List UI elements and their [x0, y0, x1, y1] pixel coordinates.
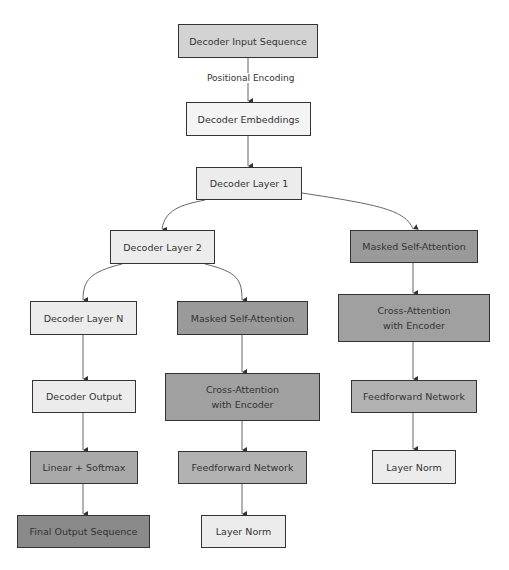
node-feedforward-mid: Feedforward Network [178, 451, 307, 484]
edge-layer1-maskedsa-right [302, 193, 413, 229]
node-decoder-layer-n: Decoder Layer N [30, 301, 137, 335]
edge-label-positional-encoding: Positional Encoding [205, 73, 296, 83]
edge-layer1-layer2 [162, 200, 205, 229]
node-masked-self-attention-mid: Masked Self-Attention [177, 301, 308, 335]
node-final-output-sequence: Final Output Sequence [17, 515, 150, 548]
node-feedforward-right: Feedforward Network [351, 380, 477, 413]
node-layer-norm-mid: Layer Norm [201, 515, 286, 548]
node-linear-softmax: Linear + Softmax [30, 451, 138, 484]
diagram-canvas: Positional Encoding Decoder Input Sequen… [0, 0, 509, 570]
node-masked-self-attention-right: Masked Self-Attention [350, 230, 478, 263]
node-decoder-layer-1: Decoder Layer 1 [196, 167, 302, 200]
node-cross-attention-mid: Cross-Attention with Encoder [165, 373, 320, 421]
node-cross-attention-right: Cross-Attention with Encoder [338, 294, 490, 342]
node-decoder-output: Decoder Output [32, 380, 136, 413]
edge-layer2-layerN [83, 264, 122, 300]
node-layer-norm-right: Layer Norm [372, 450, 456, 484]
node-decoder-layer-2: Decoder Layer 2 [110, 230, 215, 264]
edges-layer [0, 0, 509, 570]
node-decoder-input-sequence: Decoder Input Sequence [178, 24, 318, 58]
edge-layer2-maskedsa-mid [205, 264, 242, 300]
node-decoder-embeddings: Decoder Embeddings [186, 102, 311, 136]
